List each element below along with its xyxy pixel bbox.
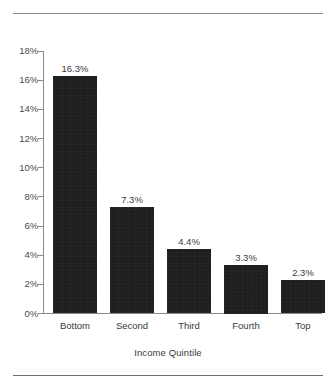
x-axis-title: Income Quintile	[0, 347, 336, 358]
bar	[281, 280, 325, 314]
y-axis-tick	[38, 51, 44, 52]
x-axis-category-label: Top	[271, 320, 335, 332]
y-axis-tick	[38, 313, 44, 314]
bar-value-label: 16.3%	[43, 63, 107, 74]
bar-value-label: 2.3%	[271, 267, 335, 278]
y-axis-tick-label: 12%	[19, 134, 38, 144]
y-axis-tick	[38, 196, 44, 197]
y-axis-tick	[38, 138, 44, 139]
y-axis-tick	[38, 255, 44, 256]
bar	[167, 249, 211, 313]
figure-container: 0%2%4%6%8%10%12%14%16%18%16.3%Bottom7.3%…	[0, 0, 336, 384]
bar	[224, 265, 268, 313]
y-axis-tick-label: 8%	[24, 192, 38, 202]
bar	[110, 207, 154, 313]
y-axis-tick	[38, 109, 44, 110]
bar-value-label: 7.3%	[100, 194, 164, 205]
y-axis-tick-label: 0%	[24, 309, 38, 319]
y-axis-tick-label: 6%	[24, 221, 38, 231]
y-axis-tick	[38, 284, 44, 285]
x-axis-category-label: Second	[100, 320, 164, 332]
y-axis-line	[43, 51, 44, 314]
x-axis-category-label: Third	[157, 320, 221, 332]
y-axis-tick-label: 18%	[19, 46, 38, 56]
y-axis-tick-label: 4%	[24, 250, 38, 260]
y-axis-tick	[38, 80, 44, 81]
x-axis-category-label: Bottom	[43, 320, 107, 332]
y-axis-tick-label: 2%	[24, 279, 38, 289]
y-axis-tick-label: 16%	[19, 75, 38, 85]
bar-chart-plot-area: 0%2%4%6%8%10%12%14%16%18%16.3%Bottom7.3%…	[0, 0, 336, 384]
x-axis-category-label: Fourth	[214, 320, 278, 332]
bar-value-label: 3.3%	[214, 252, 278, 263]
y-axis-tick-label: 10%	[19, 163, 38, 173]
y-axis-tick	[38, 226, 44, 227]
bar-value-label: 4.4%	[157, 236, 221, 247]
bar	[53, 76, 97, 314]
y-axis-tick-label: 14%	[19, 104, 38, 114]
y-axis-tick	[38, 167, 44, 168]
